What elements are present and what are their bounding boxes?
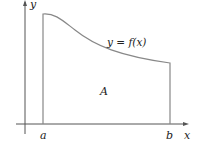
x-axis-label: x (184, 129, 191, 142)
lower-bound-label: a (40, 129, 47, 142)
curve-label: y = f(x) (106, 36, 146, 48)
y-axis-label: y (29, 0, 37, 11)
upper-bound-label: b (166, 129, 173, 142)
area-diagram: y x y = f(x) A a b (0, 0, 203, 149)
area-label: A (99, 85, 108, 98)
region-boundary (43, 14, 170, 124)
x-axis-arrow-icon (183, 122, 189, 126)
y-axis-arrow-icon (23, 0, 27, 6)
